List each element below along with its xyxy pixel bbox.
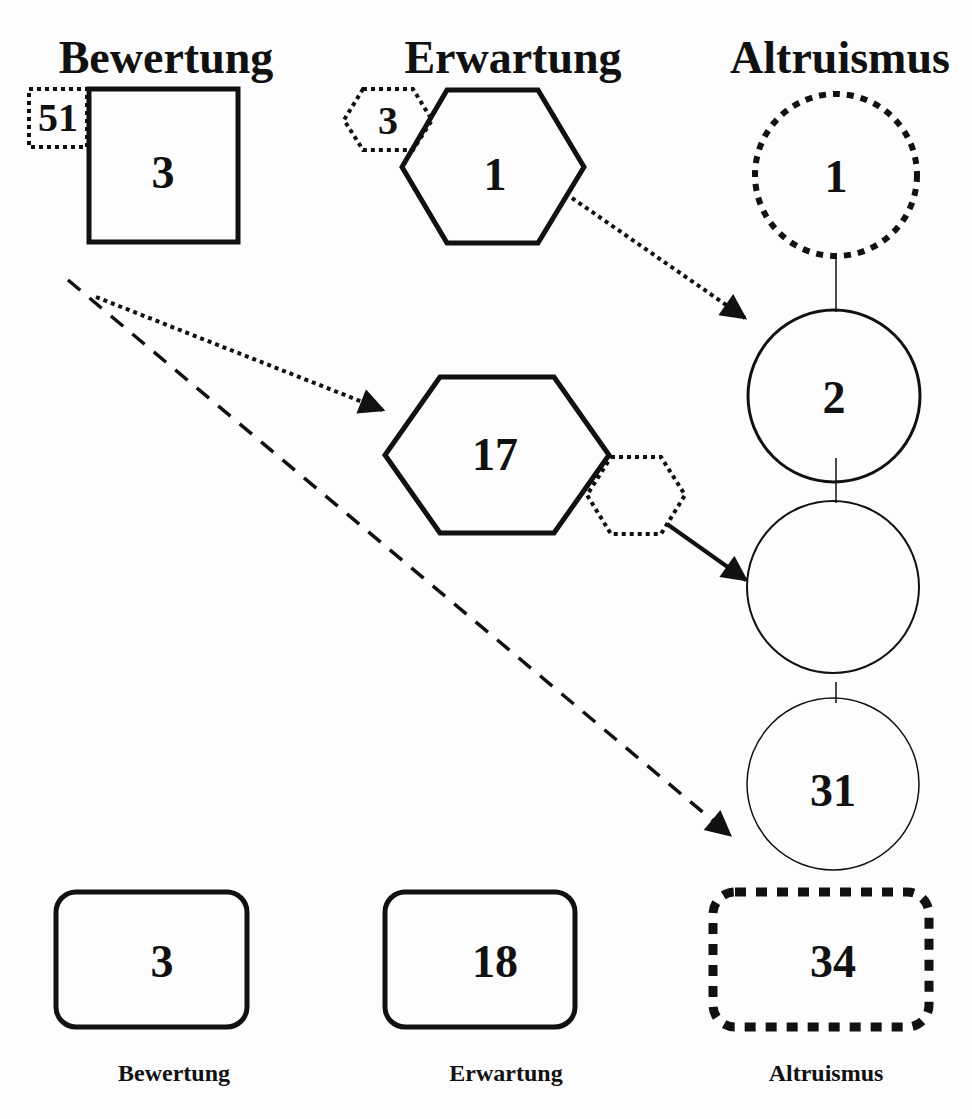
header-erwartung: Erwartung — [404, 32, 621, 83]
header-altruismus: Altruismus — [730, 32, 950, 83]
erwartung-hexagon-node: 1 — [402, 90, 584, 243]
diagram-canvas: Bewertung Erwartung Altruismus 3 51 1 3 … — [0, 0, 972, 1119]
legend-bewertung-value: 3 — [151, 936, 174, 987]
arrow-dotted-bewertung-to-erwartung — [96, 297, 383, 410]
altruismus-circle-3-node — [747, 501, 919, 673]
legend-bewertung-label: Bewertung — [118, 1060, 230, 1086]
legend-altruismus-label: Altruismus — [769, 1060, 884, 1086]
altruismus-circle-1-node: 1 — [755, 94, 917, 256]
altruismus-circle-2-node: 2 — [748, 310, 920, 482]
erwartung-badge-value: 3 — [378, 98, 398, 143]
erwartung-hexagon-17-node: 17 — [385, 377, 609, 533]
bewertung-badge-value: 51 — [38, 95, 78, 140]
altruismus-circle-2-value: 2 — [823, 372, 846, 423]
header-bewertung: Bewertung — [59, 32, 274, 83]
arrow-dashed-bewertung-to-altruismus — [68, 280, 730, 835]
erwartung-hexagon-value: 1 — [484, 149, 507, 200]
legend-altruismus-value: 34 — [810, 936, 856, 987]
legend-bewertung: 3 Bewertung — [56, 892, 247, 1086]
altruismus-circle-4-value: 31 — [810, 765, 856, 816]
legend-erwartung-label: Erwartung — [449, 1060, 562, 1086]
altruismus-circle-4-node: 31 — [747, 698, 919, 870]
legend-erwartung: 18 Erwartung — [385, 892, 575, 1086]
altruismus-circle-1-value: 1 — [825, 151, 848, 202]
erwartung-dotted-hexagon-node — [587, 457, 685, 534]
legend-altruismus: 34 Altruismus — [713, 892, 929, 1086]
legend-erwartung-value: 18 — [472, 936, 518, 987]
erwartung-hexagon-17-value: 17 — [472, 429, 518, 480]
bewertung-square-value: 3 — [152, 147, 175, 198]
bewertung-badge-node: 51 — [29, 89, 87, 147]
arrow-solid-erwartung-to-altruismus — [667, 524, 746, 580]
bewertung-square-node: 3 — [89, 89, 238, 242]
arrow-dotted-erwartung-to-altruismus — [572, 198, 745, 318]
